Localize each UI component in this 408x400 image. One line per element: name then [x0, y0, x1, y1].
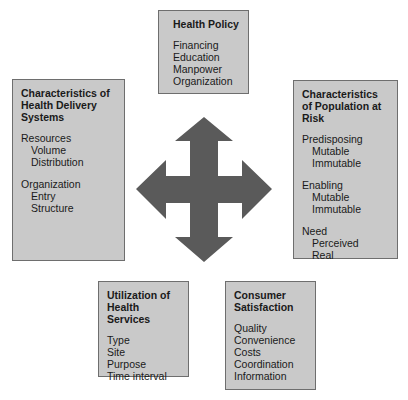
subitem: Immutable [302, 157, 389, 169]
subitem: Distribution [21, 156, 116, 168]
subitem: Mutable [302, 145, 389, 157]
population-at-risk-box: Characteristics of Population at Risk Pr… [293, 80, 398, 259]
policy-item-manpower: Manpower [173, 63, 240, 75]
delivery-group-organization: Organization Entry Structure [21, 178, 116, 214]
population-group-enabling: Enabling Mutable Immutable [302, 179, 389, 215]
health-policy-box: Health Policy Financing Education Manpow… [158, 10, 249, 94]
utilization-item-site: Site [107, 346, 180, 358]
group-label: Predisposing [302, 133, 389, 145]
population-group-predisposing: Predisposing Mutable Immutable [302, 133, 389, 169]
subitem: Mutable [302, 191, 389, 203]
consumer-item-costs: Costs [234, 346, 307, 358]
group-label: Enabling [302, 179, 389, 191]
policy-item-financing: Financing [173, 39, 240, 51]
consumer-title: Consumer Satisfaction [234, 289, 307, 313]
consumer-item-quality: Quality [234, 322, 307, 334]
utilization-item-purpose: Purpose [107, 358, 180, 370]
subitem: Perceived [302, 237, 389, 249]
subitem: Real [302, 249, 389, 261]
health-delivery-systems-box: Characteristics of Health Delivery Syste… [12, 79, 125, 261]
utilization-box: Utilization of Health Services Type Site… [98, 281, 189, 377]
health-policy-title: Health Policy [173, 18, 240, 30]
four-way-arrow-icon [136, 117, 272, 262]
subitem: Volume [21, 144, 116, 156]
policy-item-organization: Organization [173, 75, 240, 87]
policy-item-education: Education [173, 51, 240, 63]
population-title: Characteristics of Population at Risk [302, 88, 389, 124]
delivery-group-resources: Resources Volume Distribution [21, 132, 116, 168]
group-label: Organization [21, 178, 116, 190]
consumer-item-convenience: Convenience [234, 334, 307, 346]
utilization-item-type: Type [107, 334, 180, 346]
subitem: Structure [21, 202, 116, 214]
population-group-need: Need Perceived Real [302, 225, 389, 261]
subitem: Immutable [302, 203, 389, 215]
group-label: Need [302, 225, 389, 237]
subitem: Entry [21, 190, 116, 202]
consumer-item-information: Information [234, 370, 307, 382]
utilization-title: Utilization of Health Services [107, 289, 180, 325]
utilization-item-time-interval: Time interval [107, 370, 180, 382]
group-label: Resources [21, 132, 116, 144]
consumer-satisfaction-box: Consumer Satisfaction Quality Convenienc… [225, 281, 316, 390]
delivery-title: Characteristics of Health Delivery Syste… [21, 87, 116, 123]
consumer-item-coordination: Coordination [234, 358, 307, 370]
